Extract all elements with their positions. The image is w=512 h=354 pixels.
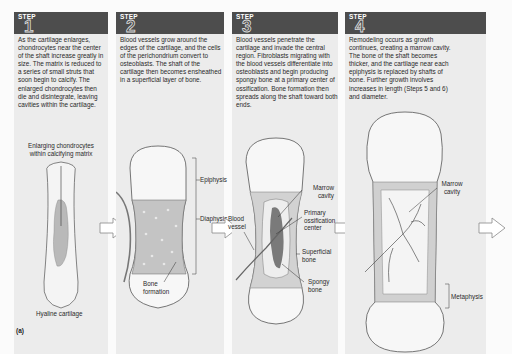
step-3-bone-illustration [232,12,338,354]
step-3-panel: STEP 3 Blood vessels penetrate the carti… [232,12,338,354]
step-4-panel: STEP 4 Remodeling occurs as growth conti… [345,12,486,354]
step-1-panel: STEP 1 As the cartilage enlarges, chondr… [14,12,108,354]
label-bone-formation: Bone formation [143,280,175,295]
label-epiphysis: Epiphysis [200,176,227,184]
hyaline-cartilage-illustration [14,12,108,354]
label-spongy-bone: Spongy bone [308,278,336,293]
label-primary-ossification-center: Primary ossification center [304,209,338,232]
figure-label: (a) [16,327,24,334]
label-hyaline-cartilage: Hyaline cartilage [36,310,83,318]
step-2-panel: STEP 2 Blood vessels grow around the edg… [116,12,224,354]
label-superficial-bone: Superficial bone [302,248,334,263]
label-marrow-cavity: Marrow cavity [304,184,334,199]
arrow-right-icon [478,217,506,239]
label-metaphysis: Metaphysis [451,293,483,301]
label-marrow-cavity: Marrow cavity [439,180,465,195]
label-blood-vessel: Blood vessel [228,215,250,230]
